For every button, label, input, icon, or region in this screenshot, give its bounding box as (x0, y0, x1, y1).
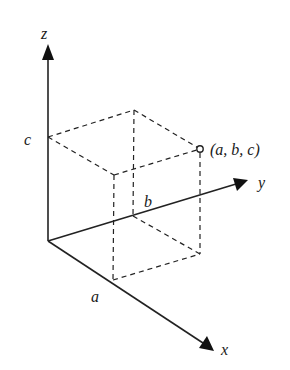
dashed-box (48, 110, 200, 280)
box-edge-vertical-a (113, 175, 114, 280)
box-edge-ac-abc (114, 149, 200, 175)
coordinate-diagram: z y x c b a (a, b, c) (0, 0, 290, 370)
z-arrow-icon (42, 44, 54, 60)
box-edge-c-ac (48, 137, 114, 175)
box-edge-c-bc (48, 110, 134, 137)
box-edge-vertical-b (133, 110, 134, 216)
b-intercept-label: b (144, 193, 152, 210)
a-intercept-label: a (91, 288, 99, 305)
x-axis (48, 241, 203, 343)
y-axis (48, 184, 236, 241)
box-edge-b-ab (133, 216, 200, 254)
y-arrow-icon (233, 178, 248, 191)
box-edge-bc-abc (134, 110, 200, 149)
x-axis-label: x (220, 341, 228, 358)
x-arrow-icon (199, 336, 214, 351)
point-marker-icon (197, 146, 203, 152)
y-axis-label: y (256, 174, 266, 192)
z-axis-label: z (40, 25, 48, 42)
point-label: (a, b, c) (210, 141, 260, 159)
box-edge-a-ab (113, 254, 200, 280)
c-intercept-label: c (24, 131, 31, 148)
